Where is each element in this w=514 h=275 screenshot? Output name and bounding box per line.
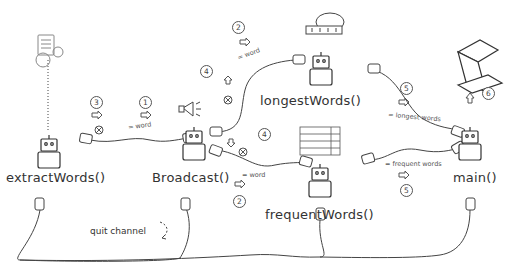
plug-icon [79,133,92,144]
plug-icon [368,64,380,73]
plug-icon [210,127,222,136]
arrow-up-icon [466,93,474,103]
arrow-right-icon [399,171,409,179]
frequency-table-icon [300,127,340,155]
robot-broadcast-icon [183,127,205,160]
arrow-right-icon [141,111,151,119]
step-3: 3 [90,96,103,109]
node-extract-words: extractWords() [6,170,105,185]
step-6: 6 [482,87,495,100]
edge-label-word: = word [242,171,266,179]
robot-extract-icon [38,135,60,168]
node-longest-words: longestWords() [260,93,361,108]
arrow-right-icon [92,111,102,119]
channel-extract-broadcast [90,138,188,141]
plug-icon [293,55,305,64]
channel-frequent-main [368,148,460,160]
measuring-tape-icon [306,13,344,34]
step-5: 5 [400,184,413,197]
quit-arrow [160,222,167,238]
megaphone-icon [179,102,201,116]
arrow-right-icon [240,38,250,46]
step-2: 2 [233,195,246,208]
step-5: 5 [400,82,413,95]
channel-broadcast-frequent [218,150,305,166]
step-4: 4 [200,65,213,78]
arrow-right-icon [235,180,245,188]
robot-main-icon [459,127,481,160]
channel-wires [0,0,514,275]
plug-icon [35,198,44,210]
robot-longest-icon [310,52,332,85]
arrow-up-icon [224,76,232,84]
plug-icon [361,153,375,165]
step-2: 2 [232,21,245,34]
robot-frequent-icon [309,164,331,197]
quit-channel-mid [20,220,324,261]
gears-document-icon [36,35,63,67]
node-broadcast: Broadcast() [152,170,229,185]
step-4: 4 [258,128,271,141]
node-frequent-words: frequentWords() [265,207,374,222]
quit-channel-label: quit channel [90,226,146,236]
edge-label-frequent-words: = frequent words [385,160,442,168]
plug-icon [181,198,190,210]
plug-icon [209,144,223,157]
laptop-icon [458,40,502,93]
arrow-down-icon [227,139,235,147]
plug-icon [299,156,313,168]
step-1: 1 [139,96,152,109]
node-main: main() [453,170,497,185]
plug-icon [466,198,475,210]
